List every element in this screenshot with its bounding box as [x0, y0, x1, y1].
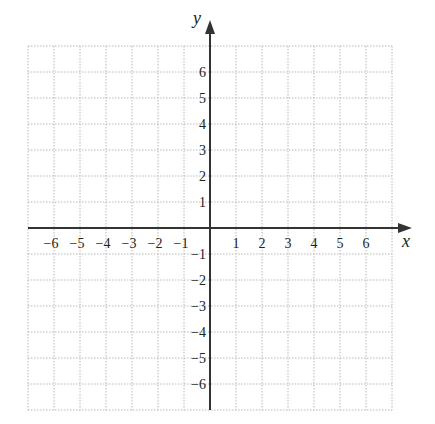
x-tick-label: −3: [122, 236, 137, 251]
x-tick-label: −2: [148, 236, 163, 251]
y-tick-label: 2: [199, 169, 206, 184]
y-tick-label: 3: [199, 143, 206, 158]
y-tick-label: −3: [191, 299, 206, 314]
x-tick-label: −4: [96, 236, 111, 251]
y-tick-label: 4: [199, 117, 206, 132]
y-tick-label: −6: [191, 377, 206, 392]
x-tick-label: −1: [174, 236, 189, 251]
y-tick-label: −1: [191, 247, 206, 262]
x-tick-labels: −6−5−4−3−2−1123456: [44, 236, 370, 251]
x-tick-label: −5: [70, 236, 85, 251]
x-tick-label: 6: [363, 236, 370, 251]
y-axis-arrow-icon: [205, 20, 215, 34]
x-tick-label: −6: [44, 236, 59, 251]
x-tick-label: 1: [233, 236, 240, 251]
x-tick-label: 2: [259, 236, 266, 251]
x-tick-label: 5: [337, 236, 344, 251]
coordinate-plane: −6−5−4−3−2−1123456 −6−5−4−3−2−1123456 x …: [0, 0, 435, 424]
x-axis-label: x: [401, 231, 410, 251]
y-tick-label: −5: [191, 351, 206, 366]
y-tick-label: 6: [199, 65, 206, 80]
y-tick-label: 5: [199, 91, 206, 106]
x-tick-label: 3: [285, 236, 292, 251]
y-tick-label: −2: [191, 273, 206, 288]
y-tick-label: 1: [199, 195, 206, 210]
y-tick-label: −4: [191, 325, 206, 340]
axes: [28, 20, 412, 410]
x-tick-label: 4: [311, 236, 318, 251]
y-axis-label: y: [191, 8, 201, 28]
